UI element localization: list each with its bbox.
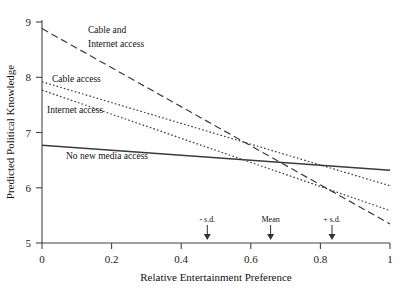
y-axis-title: Predicted Political Knowledge: [4, 65, 16, 200]
annotation-mean-label: Mean: [261, 215, 279, 224]
annotation-mean-arrowhead: [267, 234, 274, 240]
y-tick-label-9: 9: [26, 16, 32, 28]
annotation-minus-sd-arrowhead: [204, 234, 211, 240]
y-tick-label-5: 5: [26, 237, 32, 249]
x-tick-label-0.8: 0.8: [314, 253, 328, 265]
annotation-plus-sd-arrowhead: [329, 234, 336, 240]
x-tick-group: [42, 243, 390, 249]
chart-figure: 9 8 7 6 5 0 0.2 0.4 0.6 0.8 1 Relative E…: [0, 0, 420, 289]
series-label-internet-access: Internet access: [47, 105, 103, 115]
annotation-plus-sd: + s.d.: [323, 215, 341, 240]
annotation-minus-sd: - s.d.: [199, 215, 215, 240]
series-line-cable-access: [42, 82, 390, 186]
y-tick-label-8: 8: [26, 71, 32, 83]
x-tick-label-1: 1: [387, 253, 393, 265]
series-line-cable-and-internet-access: [42, 29, 390, 224]
series-label-no-new-media-access: No new media access: [66, 151, 148, 161]
chart-canvas: 9 8 7 6 5 0 0.2 0.4 0.6 0.8 1 Relative E…: [0, 0, 420, 289]
annotation-minus-sd-label: - s.d.: [199, 215, 215, 224]
series-label-cable-and-internet-access-line1: Cable and: [88, 25, 127, 35]
annotation-plus-sd-label: + s.d.: [323, 215, 341, 224]
annotation-mean: Mean: [261, 215, 279, 240]
y-tick-label-7: 7: [26, 127, 32, 139]
x-tick-label-0.6: 0.6: [244, 253, 258, 265]
x-axis-title: Relative Entertainment Preference: [140, 271, 292, 283]
x-tick-label-0.2: 0.2: [105, 253, 119, 265]
x-tick-label-0: 0: [39, 253, 45, 265]
series-label-cable-access: Cable access: [52, 74, 101, 84]
y-tick-label-6: 6: [26, 182, 32, 194]
series-label-cable-and-internet-access-line2: Internet access: [88, 39, 144, 49]
x-tick-label-0.4: 0.4: [174, 253, 188, 265]
y-tick-group: [36, 22, 42, 243]
